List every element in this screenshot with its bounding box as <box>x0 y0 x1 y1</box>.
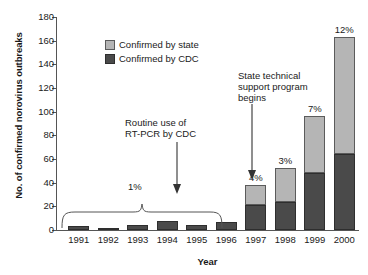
legend-label-state: Confirmed by state <box>119 40 199 50</box>
y-axis-line <box>56 17 57 230</box>
bar-segment-cdc-1991[interactable] <box>68 226 89 230</box>
y-tick-label-20: 20 <box>0 201 54 211</box>
x-axis-line <box>56 230 359 231</box>
y-tick-label-80: 80 <box>0 130 54 140</box>
brace-percent-label: 1% <box>128 181 142 192</box>
bar-segment-cdc-1998[interactable] <box>275 202 296 230</box>
legend-item-cdc: Confirmed by CDC <box>105 54 199 64</box>
y-tick-label-0: 0 <box>0 225 54 235</box>
bar-segment-cdc-1997[interactable] <box>245 205 266 230</box>
annotation-rtpcr-line2: RT-PCR by CDC <box>125 128 235 139</box>
bar-segment-cdc-1994[interactable] <box>157 221 178 230</box>
annotation-rtpcr: Routine use of RT-PCR by CDC <box>125 117 235 139</box>
y-tick-label-60: 60 <box>0 154 54 164</box>
legend-swatch-state-icon <box>105 40 115 50</box>
bar-segment-state-1998[interactable] <box>275 168 296 201</box>
bar-percent-label-1997: 4% <box>236 172 276 183</box>
bar-2000[interactable]: 12% <box>334 17 355 230</box>
bar-segment-cdc-1999[interactable] <box>304 173 325 230</box>
annotation-state-line1: State technical <box>238 70 333 81</box>
bar-segment-cdc-1995[interactable] <box>186 225 207 230</box>
bar-segment-state-2000[interactable] <box>334 37 355 154</box>
legend-swatch-cdc-icon <box>105 54 115 64</box>
bar-percent-label-2000: 12% <box>324 24 364 35</box>
legend: Confirmed by state Confirmed by CDC <box>105 40 199 68</box>
y-tick-label-100: 100 <box>0 107 54 117</box>
y-tick-label-40: 40 <box>0 178 54 188</box>
bar-segment-state-1999[interactable] <box>304 116 325 173</box>
x-tick-label-2000: 2000 <box>324 234 364 245</box>
y-tick-label-180: 180 <box>0 12 54 22</box>
bar-percent-label-1999: 7% <box>295 103 335 114</box>
bar-segment-cdc-1996[interactable] <box>216 222 237 230</box>
bar-1997[interactable]: 4% <box>245 17 266 230</box>
bar-percent-label-1998: 3% <box>265 155 305 166</box>
annotation-state-line3: begins <box>238 92 333 103</box>
norovirus-outbreaks-chart: No. of confirmed norovirus outbreaks 020… <box>0 0 368 275</box>
bar-1991[interactable] <box>68 17 89 230</box>
x-axis-title: Year <box>56 256 359 267</box>
annotation-state-support: State technical support program begins <box>238 70 333 103</box>
annotation-state-line2: support program <box>238 81 333 92</box>
annotation-rtpcr-line1: Routine use of <box>125 117 235 128</box>
y-tick-label-140: 140 <box>0 59 54 69</box>
bar-segment-cdc-1992[interactable] <box>98 228 119 230</box>
bar-segment-state-1997[interactable] <box>245 185 266 205</box>
y-tick-label-160: 160 <box>0 36 54 46</box>
legend-label-cdc: Confirmed by CDC <box>119 54 199 64</box>
legend-item-state: Confirmed by state <box>105 40 199 50</box>
bar-1998[interactable]: 3% <box>275 17 296 230</box>
y-tick-label-120: 120 <box>0 83 54 93</box>
bar-1999[interactable]: 7% <box>304 17 325 230</box>
bar-segment-cdc-1993[interactable] <box>127 225 148 230</box>
bar-segment-cdc-2000[interactable] <box>334 154 355 230</box>
